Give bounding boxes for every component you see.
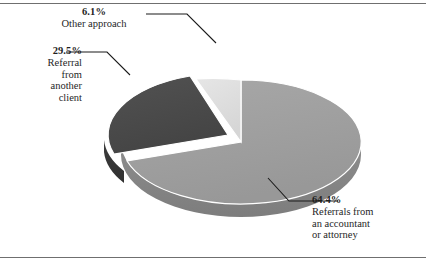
label-referral-line2: from [2, 69, 82, 81]
label-accountant-line3: or attorney [312, 229, 374, 241]
label-referral-line4: client [2, 92, 82, 104]
label-accountant-percent: 64.4% [312, 194, 374, 206]
leader-line-other [146, 14, 216, 43]
label-accountant-line1: Referrals from [312, 206, 374, 218]
label-referral-line1: Referral [2, 57, 82, 69]
label-accountant-line2: an accountant [312, 218, 374, 230]
label-accountant-attorney: 64.4% Referrals from an accountant or at… [312, 194, 374, 241]
pie-chart-figure: 6.1% Other approach 29.5% Referral from … [0, 0, 426, 266]
label-other-approach: 6.1% Other approach [40, 6, 148, 30]
label-referral-another-client: 29.5% Referral from another client [2, 45, 82, 104]
label-referral-line3: another [2, 80, 82, 92]
label-referral-percent: 29.5% [2, 45, 82, 57]
label-other-percent: 6.1% [40, 6, 148, 18]
label-other-line1: Other approach [40, 18, 148, 30]
